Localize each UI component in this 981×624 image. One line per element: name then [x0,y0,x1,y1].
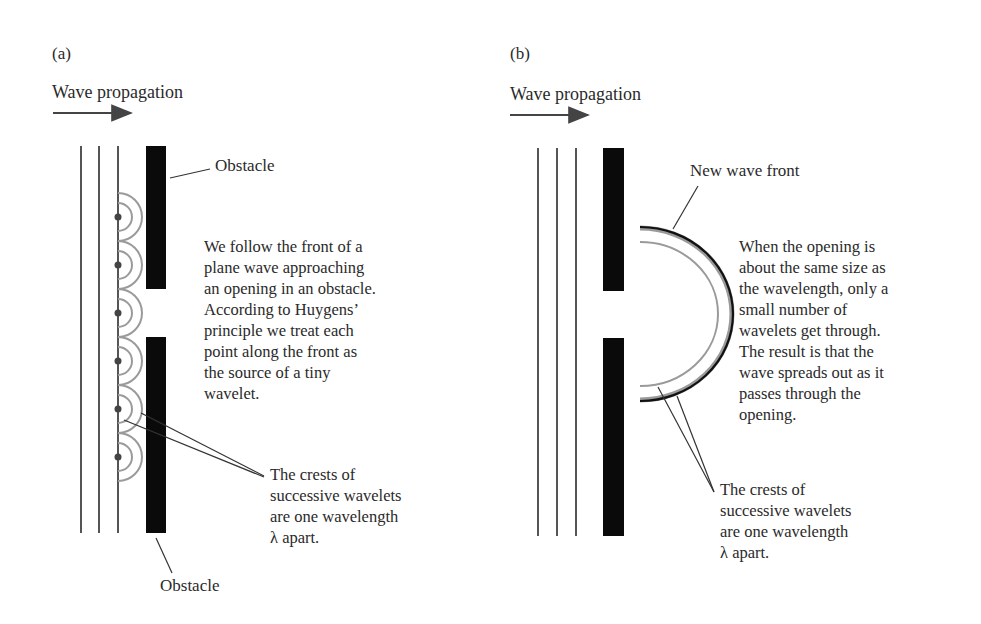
panel-b-crests-note: The crests of successive wavelets are on… [720,479,852,563]
obstacle-bottom [603,338,624,536]
panel-a-title: Wave propagation [52,82,183,103]
panel-a-description: We follow the front of a plane wave appr… [204,236,376,404]
leader-line [156,538,172,573]
leader-line [673,186,698,229]
panel-a-crests-note: The crests of successive wavelets are on… [270,464,402,548]
leader-line [677,396,714,492]
leader-line [124,420,264,477]
obstacle-bottom-label: Obstacle [160,576,219,596]
obstacle-bottom [146,337,166,533]
obstacle-top [146,146,166,289]
leader-line [658,387,714,492]
panel-a-label: (a) [52,44,71,64]
panel-b-title: Wave propagation [510,84,641,105]
obstacle-top [603,148,624,291]
wavelets [118,193,142,481]
new-wave-front-label: New wave front [690,161,800,181]
leader-line [170,169,210,178]
panel-b-description: When the opening is about the same size … [739,236,888,425]
obstacle-top-label: Obstacle [215,156,274,176]
inner-wave-crest [640,242,718,386]
panel-b-label: (b) [510,44,530,64]
